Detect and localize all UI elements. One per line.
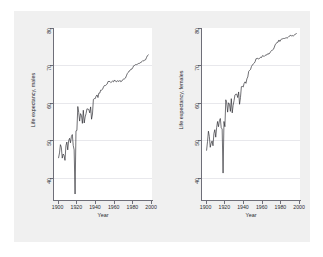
y-axis-title: Life expectancy, females — [178, 45, 184, 155]
y-tick-label: 50 — [194, 140, 200, 156]
y-tick-label: 60 — [194, 103, 200, 119]
x-tick-label: 2000 — [140, 204, 162, 211]
x-tick-label: 2000 — [288, 204, 310, 211]
x-axis-line — [201, 200, 301, 201]
series-line-males — [54, 28, 152, 200]
y-tick-label: 60 — [46, 103, 52, 119]
x-axis-title: Year — [201, 212, 301, 218]
y-axis-line — [53, 28, 54, 201]
y-tick-label: 40 — [194, 178, 200, 194]
y-tick-label: 50 — [46, 140, 52, 156]
y-tick-label: 80 — [46, 28, 52, 44]
y-axis-title: Life expectancy, males — [30, 45, 36, 155]
y-tick-label: 80 — [194, 28, 200, 44]
y-tick-label: 40 — [46, 178, 52, 194]
chart-panel-females: 80 70 60 50 40 1900 1920 1940 1960 1980 … — [162, 11, 310, 242]
x-axis-line — [53, 200, 153, 201]
y-tick-label: 70 — [194, 65, 200, 81]
chart-panel-males: 80 70 60 50 40 1900 1920 1940 1960 1980 … — [14, 11, 162, 242]
plot-area-males — [54, 28, 152, 200]
y-axis-line — [201, 28, 202, 201]
plot-area-females — [202, 28, 300, 200]
y-tick-label: 70 — [46, 65, 52, 81]
x-axis-title: Year — [53, 212, 153, 218]
figure-canvas: 80 70 60 50 40 1900 1920 1940 1960 1980 … — [0, 0, 323, 257]
series-line-females — [202, 28, 300, 200]
